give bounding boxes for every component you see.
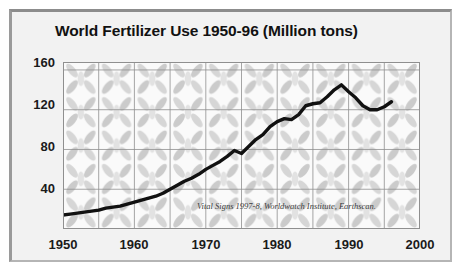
x-tick-1970: 1970 bbox=[181, 238, 231, 251]
x-tick-1980: 1980 bbox=[252, 238, 302, 251]
x-tick-2000: 2000 bbox=[395, 238, 445, 251]
y-tick-40: 40 bbox=[25, 182, 55, 195]
data-line-world-fertilizer-use bbox=[63, 85, 391, 215]
source-annotation: Vital Signs 1997-8, Worldwatch Institute… bbox=[197, 201, 376, 211]
y-axis: 160 120 80 40 bbox=[23, 0, 55, 275]
chart-title: World Fertilizer Use 1950-96 (Million to… bbox=[55, 22, 358, 40]
x-tick-1990: 1990 bbox=[324, 238, 374, 251]
x-axis: 1950 1960 1970 1980 1990 2000 bbox=[0, 238, 465, 258]
y-tick-80: 80 bbox=[25, 140, 55, 153]
y-tick-160: 160 bbox=[25, 56, 55, 69]
x-tick-1960: 1960 bbox=[109, 238, 159, 251]
x-tick-1950: 1950 bbox=[38, 238, 88, 251]
chart-figure: World Fertilizer Use 1950-96 (Million to… bbox=[0, 0, 465, 275]
y-tick-120: 120 bbox=[25, 98, 55, 111]
